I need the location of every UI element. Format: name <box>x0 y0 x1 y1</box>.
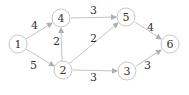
edge-2-4 <box>61 28 62 61</box>
node-1: 1 <box>9 35 27 53</box>
svg-text:1: 1 <box>15 38 22 51</box>
node-5: 5 <box>117 8 135 26</box>
svg-text:4: 4 <box>58 12 65 25</box>
edge-label-4-5: 3 <box>90 4 97 17</box>
edge-label-2-5: 2 <box>90 32 97 45</box>
svg-text:6: 6 <box>167 38 174 51</box>
svg-text:5: 5 <box>123 11 130 24</box>
edge-label-1-2: 5 <box>30 59 37 72</box>
edge-4-5 <box>71 17 116 18</box>
node-4: 4 <box>52 9 70 27</box>
graph-canvas: 4 5 2 3 2 3 4 3 1 4 2 5 3 6 <box>0 0 189 95</box>
edge-label-5-6: 4 <box>147 21 154 34</box>
node-3: 3 <box>118 62 136 80</box>
edge-label-2-4: 2 <box>53 35 60 48</box>
svg-text:3: 3 <box>124 65 131 78</box>
edge-1-4 <box>26 23 52 39</box>
svg-text:2: 2 <box>60 64 67 77</box>
edge-label-3-6: 3 <box>144 59 151 72</box>
edge-label-2-3: 3 <box>90 71 97 84</box>
node-2: 2 <box>54 61 72 79</box>
node-6: 6 <box>161 35 179 53</box>
edge-label-1-4: 4 <box>31 19 38 32</box>
